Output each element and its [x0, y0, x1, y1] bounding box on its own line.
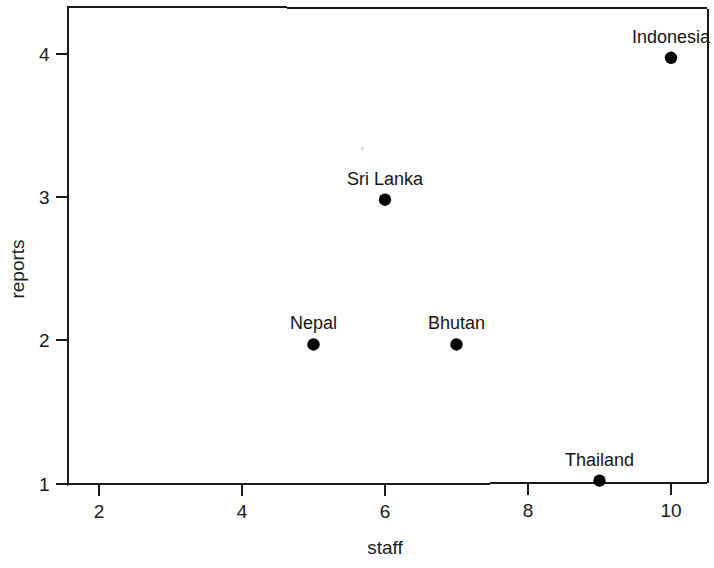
frame-top — [68, 7, 708, 9]
y-tick-label-3: 3 — [20, 187, 50, 206]
data-point-marker — [450, 338, 462, 350]
data-point-label: Indonesia — [632, 28, 710, 46]
x-tick-label-4: 4 — [237, 502, 248, 521]
data-point-marker — [593, 474, 605, 486]
data-point-label: Bhutan — [428, 314, 485, 332]
y-axis-title: reports — [8, 239, 27, 298]
data-point-label: Thailand — [565, 451, 634, 469]
x-tick-label-10: 10 — [660, 501, 681, 520]
x-tick-label-6: 6 — [380, 502, 391, 521]
x-axis-title: staff — [367, 538, 403, 557]
data-point-marker — [665, 52, 677, 64]
plot-canvas — [0, 0, 714, 568]
x-tick-label-2: 2 — [94, 502, 105, 521]
data-point-label: Nepal — [290, 314, 337, 332]
y-axis-ticks — [56, 54, 68, 484]
x-tick-label-8: 8 — [523, 501, 534, 520]
y-tick-label-2: 2 — [20, 331, 50, 350]
y-tick-label-1: 1 — [20, 474, 50, 493]
y-tick-label-4: 4 — [20, 44, 50, 63]
data-point-markers — [307, 52, 677, 487]
frame-bottom-axis — [68, 483, 708, 485]
data-point-label: Sri Lanka — [347, 170, 423, 188]
plot-frame — [68, 7, 708, 485]
scan-artifact-speck — [361, 147, 364, 150]
data-point-marker — [307, 338, 319, 350]
scatter-plot-figure: 1234 246810 IndonesiaSri LankaBhutanNepa… — [0, 0, 714, 568]
data-point-marker — [379, 194, 391, 206]
